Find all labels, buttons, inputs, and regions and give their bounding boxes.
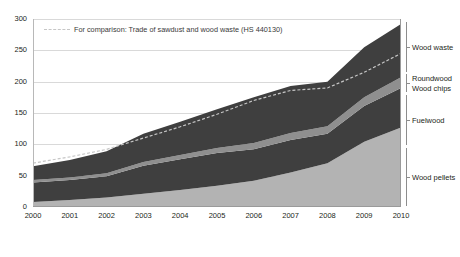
legend-reference-line: For comparison: Trade of sawdust and woo…	[44, 26, 282, 33]
x-tick-label-2004: 2004	[160, 212, 200, 220]
x-tick-label-2007: 2007	[271, 212, 311, 220]
legend-label: For comparison: Trade of sawdust and woo…	[74, 26, 282, 33]
series-label-wood-chips: Wood chips	[412, 84, 451, 93]
y-tick-label-200: 200	[1, 78, 27, 86]
series-labels: Wood waste Roundwood Wood chips Fuelwood…	[404, 0, 460, 257]
y-tick-label-50: 50	[1, 172, 27, 180]
y-tick-label-300: 300	[1, 15, 27, 23]
y-tick-label-250: 250	[1, 46, 27, 54]
x-tick-label-2009: 2009	[344, 212, 384, 220]
x-tick-label-2005: 2005	[197, 212, 237, 220]
y-tick-label-100: 100	[1, 140, 27, 148]
y-axis-line	[33, 19, 34, 207]
area-series-group	[33, 19, 401, 207]
dashed-line-swatch-icon	[44, 29, 70, 30]
plot-right-border	[400, 19, 401, 207]
stacked-area-chart: 300 250 200 150 100 50 0 200020012002200…	[0, 0, 460, 257]
x-tick-label-2006: 2006	[234, 212, 274, 220]
x-tick-label-2002: 2002	[87, 212, 127, 220]
y-tick-label-150: 150	[1, 109, 27, 117]
tick-wood-pellets	[406, 177, 410, 178]
series-label-roundwood: Roundwood	[412, 74, 452, 83]
x-tick-label-2001: 2001	[50, 212, 90, 220]
y-tick-label-0: 0	[1, 203, 27, 211]
series-label-wood-pellets: Wood pellets	[412, 173, 455, 182]
tick-fuelwood	[406, 120, 410, 121]
series-label-fuelwood: Fuelwood	[412, 116, 445, 125]
plot-area	[33, 19, 401, 207]
tick-wood-waste	[406, 47, 410, 48]
x-axis-line	[33, 206, 401, 207]
series-label-wood-waste: Wood waste	[412, 43, 453, 52]
x-tick-label-2008: 2008	[307, 212, 347, 220]
x-tick-label-2000: 2000	[13, 212, 53, 220]
tick-roundwood-woodchips	[406, 83, 410, 84]
x-tick-label-2003: 2003	[123, 212, 163, 220]
